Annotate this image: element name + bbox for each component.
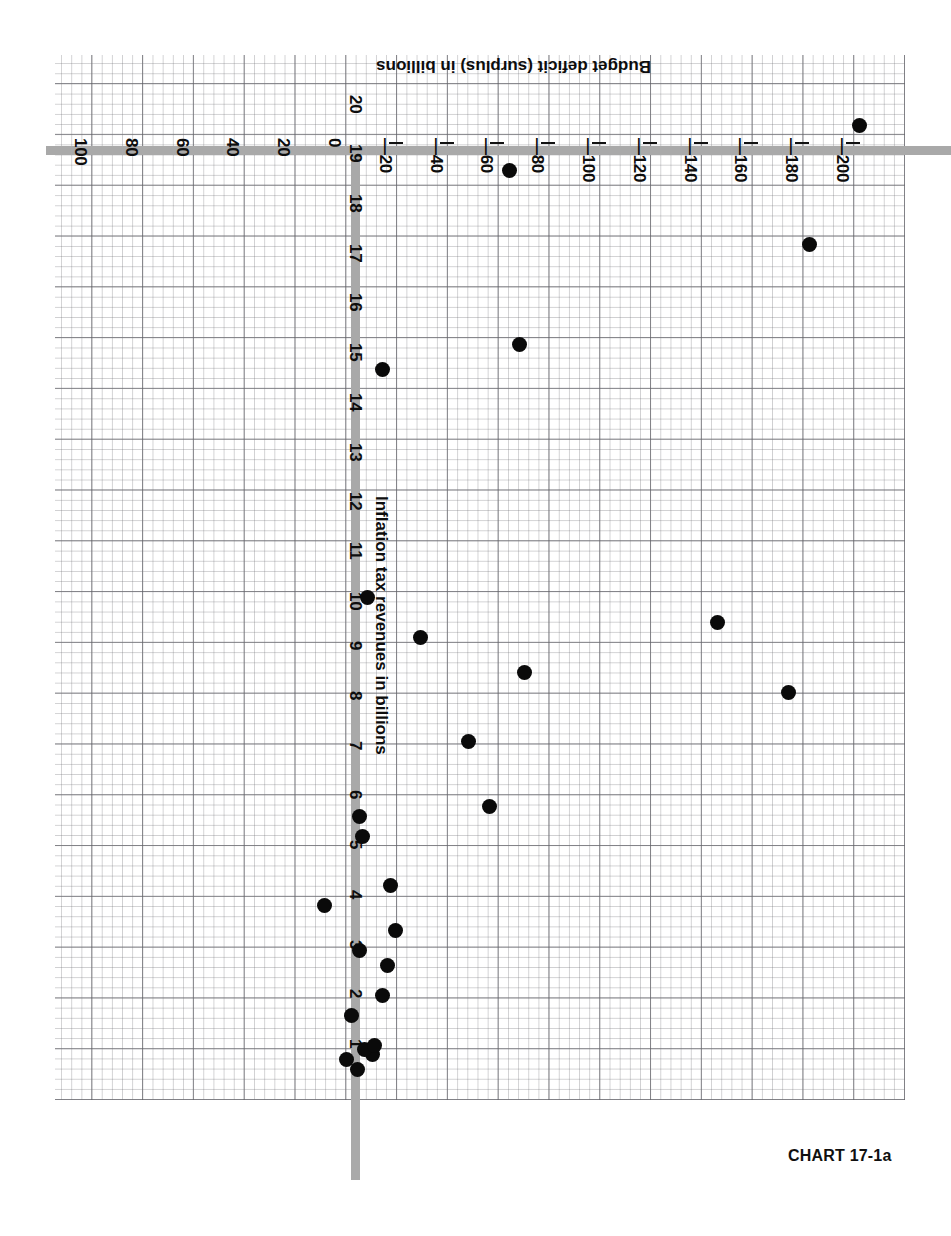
inflation-tick-label: 4 xyxy=(345,890,365,899)
budget-tick-stem xyxy=(643,142,657,144)
data-point xyxy=(482,799,497,814)
chart-page: 100806040200—20—40—60—80—100—120—140—160… xyxy=(0,0,951,1236)
inflation-tick-label: 12 xyxy=(345,492,365,510)
inflation-tick-label: 17 xyxy=(345,244,365,262)
budget-tick-stem xyxy=(694,142,708,144)
data-point xyxy=(517,665,532,680)
inflation-tick-label: 19 xyxy=(345,144,365,162)
budget-tick-label: 40 xyxy=(222,138,242,156)
plot-area xyxy=(55,55,905,1100)
budget-tick-label: —200 xyxy=(832,138,852,182)
budget-tick-stem xyxy=(490,142,504,144)
budget-tick-label: —140 xyxy=(680,138,700,182)
data-point xyxy=(388,923,403,938)
data-point xyxy=(413,630,428,645)
inflation-tick-label: 13 xyxy=(345,443,365,461)
data-point xyxy=(375,362,390,377)
budget-tick-label: —120 xyxy=(629,138,649,182)
inflation-tick-label: 8 xyxy=(345,691,365,700)
data-point xyxy=(355,829,370,844)
budget-tick-stem xyxy=(846,142,860,144)
budget-tick-label: 60 xyxy=(172,138,192,156)
budget-tick-label: 100 xyxy=(70,138,90,165)
rotated-figure: 100806040200—20—40—60—80—100—120—140—160… xyxy=(0,0,951,1236)
budget-tick-label: 80 xyxy=(121,138,141,156)
data-point xyxy=(781,685,796,700)
budget-tick-stem xyxy=(744,142,758,144)
budget-tick-stem xyxy=(389,142,403,144)
data-point xyxy=(380,958,395,973)
budget-tick-label: 0 xyxy=(324,138,344,147)
data-point xyxy=(502,163,517,178)
inflation-tick-label: 7 xyxy=(345,741,365,750)
budget-tick-label: 20 xyxy=(273,138,293,156)
inflation-tick-label: 16 xyxy=(345,294,365,312)
budget-tick-label: —180 xyxy=(781,138,801,182)
chart-caption: CHART 17-1a xyxy=(788,1147,892,1165)
data-point xyxy=(352,809,367,824)
data-point xyxy=(512,337,527,352)
inflation-tick-label: 18 xyxy=(345,194,365,212)
budget-tick-stem xyxy=(541,142,555,144)
inflation-tick-label: 2 xyxy=(345,989,365,998)
data-point xyxy=(802,237,817,252)
inflation-tick-label: 15 xyxy=(345,343,365,361)
budget-tick-label: —100 xyxy=(578,138,598,182)
budget-tick-label: —160 xyxy=(730,138,750,182)
data-point xyxy=(360,590,375,605)
budget-tick-stem xyxy=(795,142,809,144)
inflation-tick-label: 9 xyxy=(345,641,365,650)
inflation-tick-label: 11 xyxy=(345,542,365,559)
data-point xyxy=(375,988,390,1003)
inflation-tick-label: 14 xyxy=(345,393,365,411)
budget-tick-stem xyxy=(592,142,606,144)
data-point xyxy=(367,1038,382,1053)
inflation-tick-label: 6 xyxy=(345,791,365,800)
budget-tick-stem xyxy=(440,142,454,144)
inflation-axis-title: Inflation tax revenues in billions xyxy=(371,496,391,755)
data-point xyxy=(317,898,332,913)
inflation-tick-label: 20 xyxy=(345,95,365,113)
budget-axis-title: Budget deficit (surplus) in billions xyxy=(376,56,651,76)
